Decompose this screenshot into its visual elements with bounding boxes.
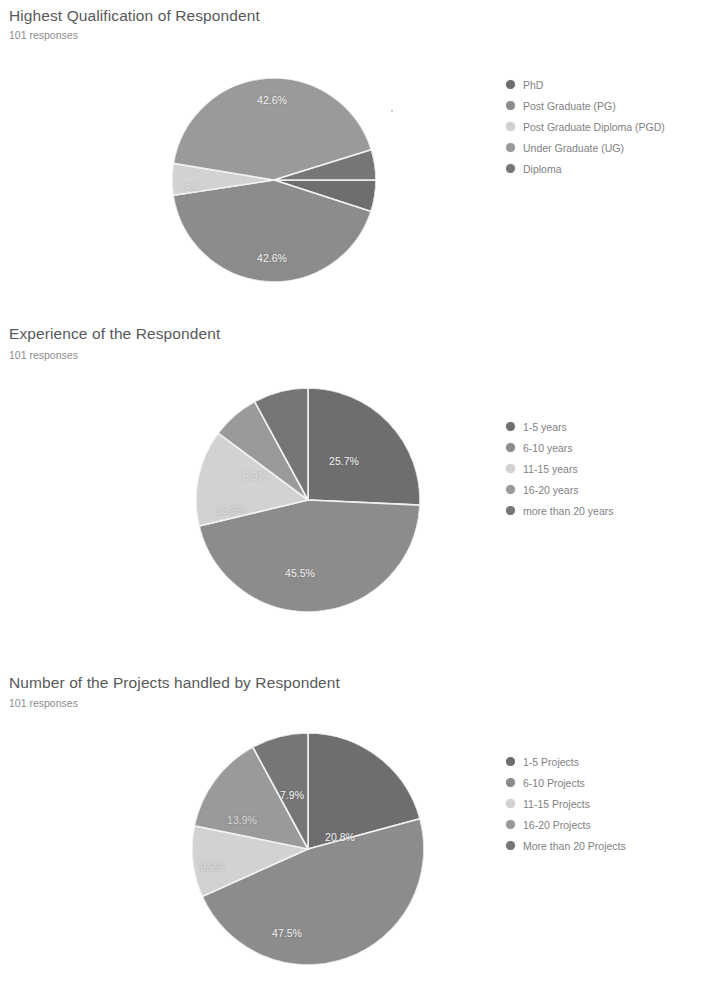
page-title: Number of the Projects handled by Respon… <box>9 673 340 692</box>
legend-item-label: 16-20 Projects <box>523 819 591 831</box>
legend-item[interactable]: PhD <box>506 75 665 94</box>
legend-item-label: 16-20 years <box>523 484 578 496</box>
legend-swatch-icon <box>506 485 515 494</box>
legend-swatch-icon <box>506 122 515 131</box>
pie-slices <box>192 733 424 965</box>
legend-item-label: more than 20 years <box>523 505 613 517</box>
pie-graphic: 20.8% 47.5% 9.9% 13.9% 7.9% <box>192 733 424 965</box>
legend-item-label: Post Graduate (PG) <box>523 100 616 112</box>
legend-item[interactable]: 1-5 years <box>506 417 613 436</box>
legend-item[interactable]: 6-10 years <box>506 438 613 457</box>
legend-swatch-icon <box>506 757 515 766</box>
page-title: Experience of the Respondent <box>9 324 220 343</box>
legend-item[interactable]: Post Graduate Diploma (PGD) <box>506 117 665 136</box>
response-count: 101 responses <box>9 348 78 362</box>
question-block-projects: Number of the Projects handled by Respon… <box>0 668 721 989</box>
legend-item-label: 11-15 years <box>523 463 578 475</box>
legend-item[interactable]: 6-10 Projects <box>506 773 626 792</box>
legend-swatch-icon <box>506 164 515 173</box>
legend-item[interactable]: More than 20 Projects <box>506 836 626 855</box>
legend-item[interactable]: Diploma <box>506 159 665 178</box>
response-count: 101 responses <box>9 696 78 710</box>
legend-item-label: 6-10 Projects <box>523 777 585 789</box>
legend-item[interactable]: 11-15 Projects <box>506 794 626 813</box>
legend-swatch-icon <box>506 841 515 850</box>
page-title: Highest Qualification of Respondent <box>9 6 260 25</box>
question-block-experience: Experience of the Respondent 101 respons… <box>0 318 721 648</box>
legend-item-label: More than 20 Projects <box>523 840 626 852</box>
legend-swatch-icon <box>506 443 515 452</box>
legend-item[interactable]: 16-20 Projects <box>506 815 626 834</box>
legend-swatch-icon <box>506 422 515 431</box>
legend-swatch-icon <box>506 464 515 473</box>
legend-swatch-icon <box>506 101 515 110</box>
legend-swatch-icon <box>506 778 515 787</box>
legend-item[interactable]: 1-5 Projects <box>506 752 626 771</box>
pie-slices <box>196 388 420 612</box>
pie-graphic: 25.7% 45.5% 13.9% 6.9% <box>196 388 420 612</box>
legend-projects: 1-5 Projects 6-10 Projects 11-15 Project… <box>506 752 626 857</box>
legend-item[interactable]: 11-15 years <box>506 459 613 478</box>
legend-item-label: 1-5 years <box>523 421 567 433</box>
legend-item[interactable]: Under Graduate (UG) <box>506 138 665 157</box>
pie-slice[interactable] <box>308 388 420 505</box>
legend-qualification: PhD Post Graduate (PG) Post Graduate Dip… <box>506 75 665 180</box>
question-block-qualification: Highest Qualification of Respondent 101 … <box>0 0 721 300</box>
legend-swatch-icon <box>506 143 515 152</box>
pie-slices <box>172 78 376 282</box>
pie-graphic: 42.6% 42.6% 5% <box>172 78 376 282</box>
legend-item-label: PhD <box>523 79 543 91</box>
legend-item-label: Post Graduate Diploma (PGD) <box>523 121 665 133</box>
legend-item-label: 11-15 Projects <box>523 798 590 810</box>
legend-swatch-icon <box>506 799 515 808</box>
legend-item-label: Diploma <box>523 163 562 175</box>
legend-item[interactable]: Post Graduate (PG) <box>506 96 665 115</box>
legend-item[interactable]: 16-20 years <box>506 480 613 499</box>
response-count: 101 responses <box>9 28 78 42</box>
legend-swatch-icon <box>506 506 515 515</box>
legend-item-label: 1-5 Projects <box>523 756 579 768</box>
scan-speck <box>391 110 393 112</box>
legend-experience: 1-5 years 6-10 years 11-15 years 16-20 y… <box>506 417 613 522</box>
legend-swatch-icon <box>506 820 515 829</box>
legend-item-label: 6-10 years <box>523 442 573 454</box>
legend-item-label: Under Graduate (UG) <box>523 142 624 154</box>
legend-swatch-icon <box>506 80 515 89</box>
legend-item[interactable]: more than 20 years <box>506 501 613 520</box>
